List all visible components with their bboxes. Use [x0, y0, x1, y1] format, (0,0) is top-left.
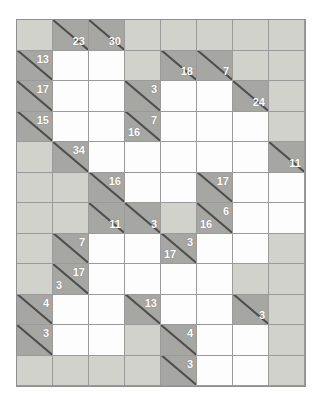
entry-cell[interactable] — [89, 295, 125, 326]
block-cell — [125, 20, 161, 51]
block-cell — [161, 20, 197, 51]
entry-cell[interactable] — [233, 325, 269, 356]
entry-cell[interactable] — [233, 356, 269, 387]
across-clue: 30 — [109, 36, 121, 47]
entry-cell[interactable] — [197, 264, 233, 295]
across-clue: 7 — [223, 66, 229, 77]
entry-cell[interactable] — [197, 356, 233, 387]
entry-cell[interactable] — [125, 142, 161, 173]
entry-cell[interactable] — [161, 173, 197, 204]
clue-cell: 173 — [53, 264, 89, 295]
block-cell — [269, 81, 305, 112]
block-cell — [125, 325, 161, 356]
block-cell — [233, 51, 269, 82]
block-cell — [17, 20, 53, 51]
block-cell — [269, 112, 305, 143]
entry-cell[interactable] — [197, 295, 233, 326]
clue-cell: 13 — [125, 295, 161, 326]
entry-cell[interactable] — [233, 203, 269, 234]
across-clue: 17 — [164, 249, 176, 260]
entry-cell[interactable] — [233, 112, 269, 143]
clue-cell: 7 — [197, 51, 233, 82]
clue-cell: 4 — [17, 295, 53, 326]
entry-cell[interactable] — [161, 112, 197, 143]
down-clue: 34 — [73, 145, 85, 156]
clue-cell: 716 — [125, 112, 161, 143]
entry-cell[interactable] — [125, 234, 161, 265]
down-clue: 4 — [187, 328, 193, 339]
entry-cell[interactable] — [197, 234, 233, 265]
entry-cell[interactable] — [197, 142, 233, 173]
entry-cell[interactable] — [53, 295, 89, 326]
across-clue: 3 — [259, 310, 265, 321]
down-clue: 13 — [37, 54, 49, 65]
down-clue: 3 — [43, 328, 49, 339]
down-clue: 4 — [43, 298, 49, 309]
entry-cell[interactable] — [89, 325, 125, 356]
across-clue: 24 — [253, 97, 265, 108]
entry-cell[interactable] — [89, 234, 125, 265]
clue-cell: 3 — [125, 203, 161, 234]
down-clue: 3 — [187, 237, 193, 248]
clue-cell: 17 — [17, 81, 53, 112]
block-cell — [269, 295, 305, 326]
block-cell — [233, 264, 269, 295]
block-cell — [125, 356, 161, 387]
clue-cell: 13 — [17, 51, 53, 82]
block-cell — [269, 325, 305, 356]
grid-frame: 2330131871732415716341116171136167317173… — [16, 19, 306, 387]
clue-cell: 16 — [89, 173, 125, 204]
entry-cell[interactable] — [125, 173, 161, 204]
block-cell — [269, 20, 305, 51]
block-cell — [269, 264, 305, 295]
entry-cell[interactable] — [89, 142, 125, 173]
clue-cell: 30 — [89, 20, 125, 51]
kakuro-grid: 2330131871732415716341116171136167317173… — [17, 20, 305, 386]
clue-cell: 11 — [269, 142, 305, 173]
entry-cell[interactable] — [89, 51, 125, 82]
block-cell — [17, 142, 53, 173]
block-cell — [17, 173, 53, 204]
clue-cell: 4 — [161, 325, 197, 356]
clue-cell: 18 — [161, 51, 197, 82]
clue-cell: 3 — [233, 295, 269, 326]
down-clue: 13 — [145, 298, 157, 309]
block-cell — [269, 51, 305, 82]
block-cell — [17, 203, 53, 234]
across-clue: 11 — [109, 219, 121, 230]
entry-cell[interactable] — [269, 173, 305, 204]
clue-cell: 7 — [53, 234, 89, 265]
entry-cell[interactable] — [233, 234, 269, 265]
block-cell — [17, 234, 53, 265]
down-clue: 6 — [223, 206, 229, 217]
entry-cell[interactable] — [89, 264, 125, 295]
block-cell — [125, 51, 161, 82]
entry-cell[interactable] — [125, 264, 161, 295]
entry-cell[interactable] — [89, 81, 125, 112]
across-clue: 18 — [181, 66, 193, 77]
entry-cell[interactable] — [197, 325, 233, 356]
clue-cell: 34 — [53, 142, 89, 173]
across-clue: 16 — [128, 127, 140, 138]
clue-cell: 3 — [125, 81, 161, 112]
entry-cell[interactable] — [53, 112, 89, 143]
entry-cell[interactable] — [161, 264, 197, 295]
entry-cell[interactable] — [233, 142, 269, 173]
entry-cell[interactable] — [53, 81, 89, 112]
entry-cell[interactable] — [233, 173, 269, 204]
entry-cell[interactable] — [53, 325, 89, 356]
block-cell — [161, 203, 197, 234]
entry-cell[interactable] — [197, 112, 233, 143]
entry-cell[interactable] — [197, 81, 233, 112]
across-clue: 3 — [56, 280, 62, 291]
kakuro-puzzle: 2330131871732415716341116171136167317173… — [0, 0, 322, 414]
down-clue: 3 — [151, 84, 157, 95]
entry-cell[interactable] — [161, 295, 197, 326]
block-cell — [269, 356, 305, 387]
entry-cell[interactable] — [161, 142, 197, 173]
clue-cell: 616 — [197, 203, 233, 234]
entry-cell[interactable] — [89, 112, 125, 143]
entry-cell[interactable] — [161, 81, 197, 112]
entry-cell[interactable] — [53, 51, 89, 82]
entry-cell[interactable] — [269, 203, 305, 234]
